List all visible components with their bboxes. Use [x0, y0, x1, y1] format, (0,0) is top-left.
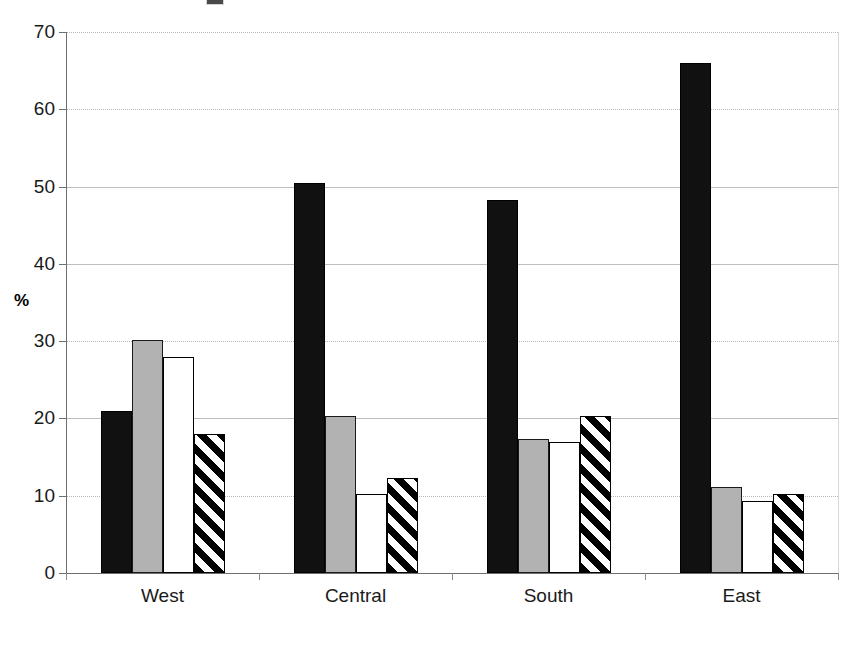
- x-axis-tick: [838, 573, 839, 580]
- y-axis-tick-label: 70: [9, 22, 55, 41]
- y-axis-tick: [59, 32, 66, 33]
- x-axis-category-label: West: [66, 585, 259, 607]
- y-axis-tick-label: 60: [9, 99, 55, 118]
- clipped-title-artifact: [206, 0, 224, 5]
- y-axis-tick-label: 30: [9, 331, 55, 350]
- y-axis-tick-label: 20: [9, 408, 55, 427]
- bar: [742, 501, 773, 573]
- x-axis-category-label: East: [645, 585, 838, 607]
- bar: [163, 357, 194, 573]
- bar: [194, 434, 225, 573]
- y-axis-tick: [59, 109, 66, 110]
- bar: [356, 494, 387, 573]
- bar: [680, 63, 711, 573]
- y-axis-tick: [59, 341, 66, 342]
- y-axis-title: %: [14, 291, 29, 311]
- bar: [294, 183, 325, 573]
- x-axis-tick: [66, 573, 67, 580]
- y-axis-tick-label: 0: [9, 563, 55, 582]
- y-axis-tick: [59, 418, 66, 419]
- bar: [580, 416, 611, 573]
- x-axis-tick: [452, 573, 453, 580]
- bar: [518, 439, 549, 573]
- bar: [387, 478, 418, 573]
- y-axis-tick: [59, 496, 66, 497]
- y-axis-tick-label: 40: [9, 254, 55, 273]
- bar: [132, 340, 163, 573]
- x-axis-category-label: South: [452, 585, 645, 607]
- bar-host: [66, 32, 838, 573]
- y-axis-tick: [59, 573, 66, 574]
- bars-layer: [66, 32, 838, 573]
- y-axis-tick: [59, 187, 66, 188]
- bar: [711, 487, 742, 573]
- bar: [325, 416, 356, 573]
- bar-chart: 010203040506070 % WestCentralSouthEast: [0, 0, 853, 650]
- bar: [549, 442, 580, 573]
- bar: [487, 200, 518, 573]
- y-axis-tick-label: 10: [9, 486, 55, 505]
- y-axis-tick: [59, 264, 66, 265]
- x-axis-tick: [259, 573, 260, 580]
- x-axis-tick: [645, 573, 646, 580]
- bar: [101, 411, 132, 573]
- plot-right-border: [838, 32, 839, 574]
- x-axis-category-label: Central: [259, 585, 452, 607]
- y-axis-tick-label: 50: [9, 177, 55, 196]
- bar: [773, 494, 804, 573]
